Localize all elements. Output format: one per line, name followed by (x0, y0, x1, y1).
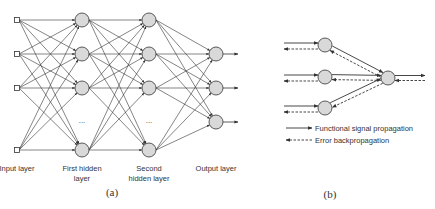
connection-arrow (19, 20, 76, 51)
input-node (15, 18, 20, 23)
signal-arrows (284, 43, 425, 112)
first-hidden-node (75, 13, 89, 27)
connection-arrow (19, 54, 78, 144)
connection-arrow (156, 54, 210, 85)
neuron-node (381, 71, 395, 85)
second-hidden-node (142, 81, 156, 95)
functional-signal-arrow (330, 79, 380, 103)
connection-arrow (89, 54, 143, 85)
nodes (318, 38, 395, 115)
neuron-node (318, 38, 332, 52)
connection-arrow (156, 88, 210, 119)
input-layer-label: Input layer (0, 164, 35, 173)
connection-arrow (19, 23, 76, 54)
connection-arrow (156, 57, 210, 88)
neuron-node (318, 101, 332, 115)
connection-arrow (89, 20, 144, 83)
panel-b-backpropagation: Functional signal propagation Error back… (284, 38, 425, 201)
connection-arrow (89, 20, 143, 51)
connections (19, 20, 238, 150)
legend-item-functional: Functional signal propagation (286, 124, 413, 133)
connection-arrow (156, 20, 210, 51)
functional-signal-arrow (332, 75, 381, 76)
layer-labels: Input layerFirst hiddenlayerSecondhidden… (0, 164, 237, 183)
connection-arrow (156, 93, 211, 150)
legend: Functional signal propagation Error back… (286, 124, 413, 145)
connection-arrow (19, 25, 77, 88)
connection-arrow (156, 60, 212, 150)
connection-arrow (89, 54, 145, 144)
connection-arrow (19, 57, 76, 88)
output-node (209, 47, 223, 61)
ellipsis: ... (79, 116, 85, 125)
connection-arrow (89, 60, 145, 150)
error-backprop-arrow (332, 80, 381, 81)
caption-b: (b) (324, 188, 337, 201)
first-hidden-layer-label: First hidden (62, 164, 101, 173)
ellipsis: ... (146, 116, 152, 125)
legend-label-functional: Functional signal propagation (315, 124, 413, 133)
legend-item-error: Error backpropagation (286, 136, 389, 145)
connection-arrow (156, 54, 211, 117)
panel-a-multilayer-network: ...... Input layerFirst hiddenlayerSecon… (0, 13, 238, 199)
second-hidden-layer-label: Second (136, 164, 161, 173)
connection-arrow (89, 57, 143, 88)
connection-arrow (19, 54, 76, 85)
input-node (15, 52, 20, 57)
neuron-node (318, 70, 332, 84)
error-backprop-arrow (332, 83, 382, 107)
connection-arrow (19, 20, 79, 144)
legend-label-error: Error backpropagation (315, 136, 389, 145)
second-hidden-node (142, 143, 156, 157)
connection-arrow (19, 60, 78, 150)
second-hidden-node (142, 13, 156, 27)
output-node (209, 81, 223, 95)
caption-a: (a) (106, 186, 119, 199)
connection-arrow (156, 20, 212, 116)
second-hidden-layer-label: hidden layer (129, 174, 170, 183)
output-layer-label: Output layer (196, 164, 237, 173)
functional-signal-arrow (332, 46, 383, 73)
first-hidden-node (75, 143, 89, 157)
neural-network-figure: ...... Input layerFirst hiddenlayerSecon… (0, 0, 435, 209)
output-node (209, 115, 223, 129)
first-hidden-node (75, 47, 89, 61)
first-hidden-node (75, 81, 89, 95)
input-node (15, 148, 20, 153)
connection-arrow (19, 20, 77, 83)
connection-arrow (89, 25, 144, 88)
first-hidden-layer-label: layer (74, 174, 91, 183)
connection-arrow (156, 20, 211, 83)
connection-arrow (89, 23, 143, 54)
input-node (15, 86, 20, 91)
second-hidden-node (142, 47, 156, 61)
error-backprop-arrow (330, 50, 381, 77)
